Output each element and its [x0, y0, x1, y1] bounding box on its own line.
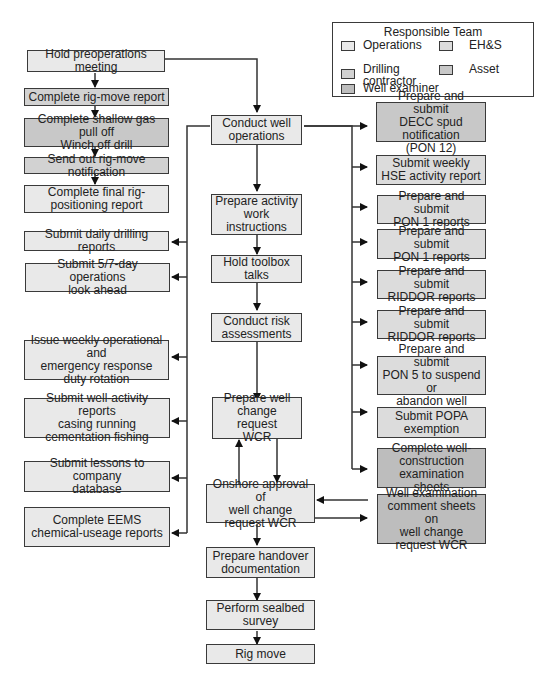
step-rig-move[interactable]: Rig move	[206, 644, 315, 664]
step-send-rig-move-notification[interactable]: Send out rig-move notification	[24, 157, 169, 174]
legend-item-operations: Operations	[341, 39, 422, 51]
step-submit-lessons[interactable]: Submit lessons to company database	[24, 461, 170, 492]
step-complete-shallow-gas[interactable]: Complete shallow gas pull off Winch off …	[24, 118, 169, 147]
step-onshore-approval-wcr[interactable]: Onshore approval of well change request …	[206, 484, 315, 523]
step-pon1-reports-1[interactable]: Prepare and submit PON 1 reports	[377, 195, 486, 224]
step-submit-popa-exemption[interactable]: Submit POPA exemption	[377, 407, 486, 438]
step-conduct-risk-assessments[interactable]: Conduct risk assessments	[211, 313, 302, 342]
step-complete-final-rig-positioning-report[interactable]: Complete final rig- positioning report	[24, 185, 169, 213]
step-hold-preoperations-meeting[interactable]: Hold preoperations meeting	[27, 50, 165, 72]
legend-swatch-operations	[341, 41, 355, 51]
step-complete-eems-reports[interactable]: Complete EEMS chemical-useage reports	[24, 507, 170, 547]
step-hold-toolbox-talks[interactable]: Hold toolbox talks	[211, 255, 302, 283]
legend-item-ehs: EH&S	[439, 39, 502, 51]
legend-swatch-drilling-contractor	[341, 69, 355, 79]
step-pon5-suspend-abandon[interactable]: Prepare and submit PON 5 to suspend or a…	[377, 356, 486, 395]
step-complete-well-construction-examination[interactable]: Complete well- construction examination …	[377, 448, 486, 488]
legend-swatch-asset	[439, 65, 453, 75]
legend-item-asset: Asset	[439, 63, 499, 75]
step-complete-rig-move-report[interactable]: Complete rig-move report	[24, 88, 169, 106]
step-submit-operations-look-ahead[interactable]: Submit 5/7-day operations look ahead	[25, 263, 170, 292]
step-submit-daily-drilling-reports[interactable]: Submit daily drilling reports	[24, 231, 169, 251]
step-prepare-handover-documentation[interactable]: Prepare handover documentation	[206, 547, 315, 578]
legend-swatch-well-examiner	[341, 84, 355, 94]
step-decc-spud-notification[interactable]: Prepare and submit DECC spud notificatio…	[376, 102, 486, 142]
step-conduct-well-operations[interactable]: Conduct well operations	[211, 115, 302, 145]
step-prepare-well-change-request[interactable]: Prepare well change request WCR	[212, 397, 302, 439]
legend: Responsible Team Operations EH&S Drillin…	[332, 22, 534, 97]
legend-swatch-ehs	[439, 41, 453, 51]
step-riddor-reports-1[interactable]: Prepare and submit RIDDOR reports	[377, 270, 486, 299]
step-riddor-reports-2[interactable]: Prepare and submit RIDDOR reports	[377, 310, 486, 339]
step-prepare-activity-work-instructions[interactable]: Prepare activity work instructions	[211, 194, 302, 235]
step-perform-sealbed-survey[interactable]: Perform sealbed survey	[206, 600, 315, 630]
step-issue-duty-rotation[interactable]: Issue weekly operational and emergency r…	[24, 340, 169, 380]
legend-title: Responsible Team	[333, 25, 533, 39]
step-submit-weekly-hse-report[interactable]: Submit weekly HSE activity report	[376, 155, 486, 185]
step-submit-well-activity-reports[interactable]: Submit well-activity reports casing runn…	[24, 398, 170, 438]
step-pon1-reports-2[interactable]: Prepare and submit PON 1 reports	[377, 229, 486, 259]
step-well-examination-comment-sheets[interactable]: Well examination comment sheets on well …	[377, 494, 486, 544]
